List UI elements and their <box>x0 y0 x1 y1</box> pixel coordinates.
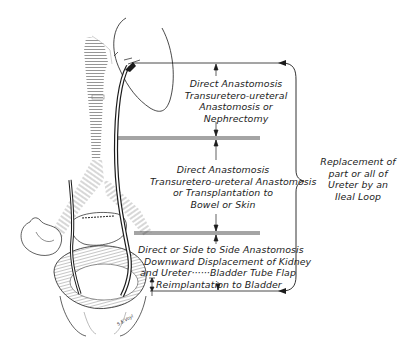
label-line: Direct Anastomosis <box>150 164 296 176</box>
label-line: Ileal Loop <box>318 191 398 203</box>
bowel-loop <box>21 218 62 256</box>
label-line: Bowel or Skin <box>150 199 296 211</box>
bladder <box>54 246 146 336</box>
lower-segment-label: Direct or Side to Side Anastomosis Downw… <box>138 244 300 290</box>
label-line: Reimplantation to Bladder <box>138 279 300 291</box>
upper-pelvic-organ <box>72 212 127 245</box>
artist-signature: S.E.Voyl <box>116 313 135 327</box>
label-line: Direct or Side to Side Anastomosis <box>138 244 300 256</box>
label-line: Transuretero-ureteral <box>178 90 294 102</box>
upper-segment-label: Direct Anastomosis Transuretero-ureteral… <box>178 78 294 124</box>
label-line: Transuretero-ureteral Anastomosis <box>150 176 296 188</box>
spine-psoas <box>84 36 112 160</box>
kidney <box>114 18 174 111</box>
label-line: Anastomosis or <box>178 101 294 113</box>
label-line: or Transplantation to <box>150 187 296 199</box>
label-line: and Ureter······Bladder Tube Flap <box>138 267 300 279</box>
middle-segment-label: Direct Anastomosis Transuretero-ureteral… <box>150 164 296 210</box>
ileal-loop-label: Replacement of part or all of Ureter by … <box>318 156 398 202</box>
label-line: part or all of <box>318 168 398 180</box>
label-line: Nephrectomy <box>178 113 294 125</box>
label-line: Direct Anastomosis <box>178 78 294 90</box>
label-line: Replacement of <box>318 156 398 168</box>
label-line: Downward Displacement of Kidney <box>138 256 300 268</box>
label-line: Ureter by an <box>318 179 398 191</box>
